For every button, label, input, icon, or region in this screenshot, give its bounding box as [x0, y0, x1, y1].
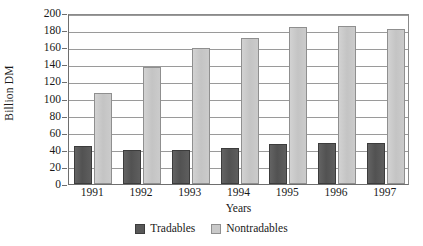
bar-tradables-1992 [123, 150, 141, 184]
x-axis-tick-label: 1991 [81, 187, 104, 199]
bar-tradables-1991 [74, 146, 92, 184]
nontradables-swatch-icon [211, 224, 221, 234]
bar-nontradables-1993 [192, 48, 210, 184]
y-axis-tick-mark [62, 151, 67, 152]
x-axis-tick-label: 1996 [324, 187, 347, 199]
y-axis-tick-mark [62, 82, 67, 83]
y-axis-tick-mark [62, 117, 67, 118]
x-axis-title: Years [68, 202, 409, 214]
legend-entry-tradables[interactable]: Tradables [135, 223, 195, 235]
y-axis-tick-mark [62, 100, 67, 101]
x-axis-tick-label: 1992 [130, 187, 153, 199]
bar-tradables-1993 [172, 150, 190, 184]
bar-nontradables-1997 [387, 29, 405, 184]
bar-nontradables-1996 [338, 26, 356, 184]
plot-area [68, 14, 409, 185]
x-axis-tick-label: 1993 [178, 187, 201, 199]
x-axis-tick-label: 1994 [227, 187, 250, 199]
x-axis-tick-label: 1995 [276, 187, 299, 199]
y-axis-tick-mark [62, 48, 67, 49]
y-axis-tick-mark [62, 185, 67, 186]
legend-entry-nontradables[interactable]: Nontradables [211, 223, 287, 235]
bar-chart-figure: Billion DM 020406080100120140160180200 1… [0, 0, 423, 246]
bar-nontradables-1992 [143, 67, 161, 184]
bars-layer [69, 15, 408, 184]
tradables-swatch-icon [135, 224, 145, 234]
bar-tradables-1994 [221, 148, 239, 184]
bar-tradables-1997 [367, 143, 385, 184]
bar-nontradables-1995 [289, 27, 307, 184]
bar-nontradables-1994 [241, 38, 259, 184]
y-axis-tick-mark [62, 134, 67, 135]
bar-tradables-1996 [318, 143, 336, 184]
y-axis-tick-mark [62, 168, 67, 169]
y-axis-tick-marks [0, 14, 68, 185]
y-axis-tick-mark [62, 14, 67, 15]
bar-nontradables-1991 [94, 93, 112, 184]
y-axis-tick-mark [62, 31, 67, 32]
bar-tradables-1995 [269, 144, 287, 184]
legend-label: Nontradables [226, 223, 287, 235]
legend-label: Tradables [150, 223, 195, 235]
y-axis-tick-mark [62, 65, 67, 66]
chart-legend: TradablesNontradables [0, 223, 423, 235]
x-axis-tick-labels: 1991199219931994199519961997 [68, 187, 409, 203]
x-axis-tick-label: 1997 [373, 187, 396, 199]
